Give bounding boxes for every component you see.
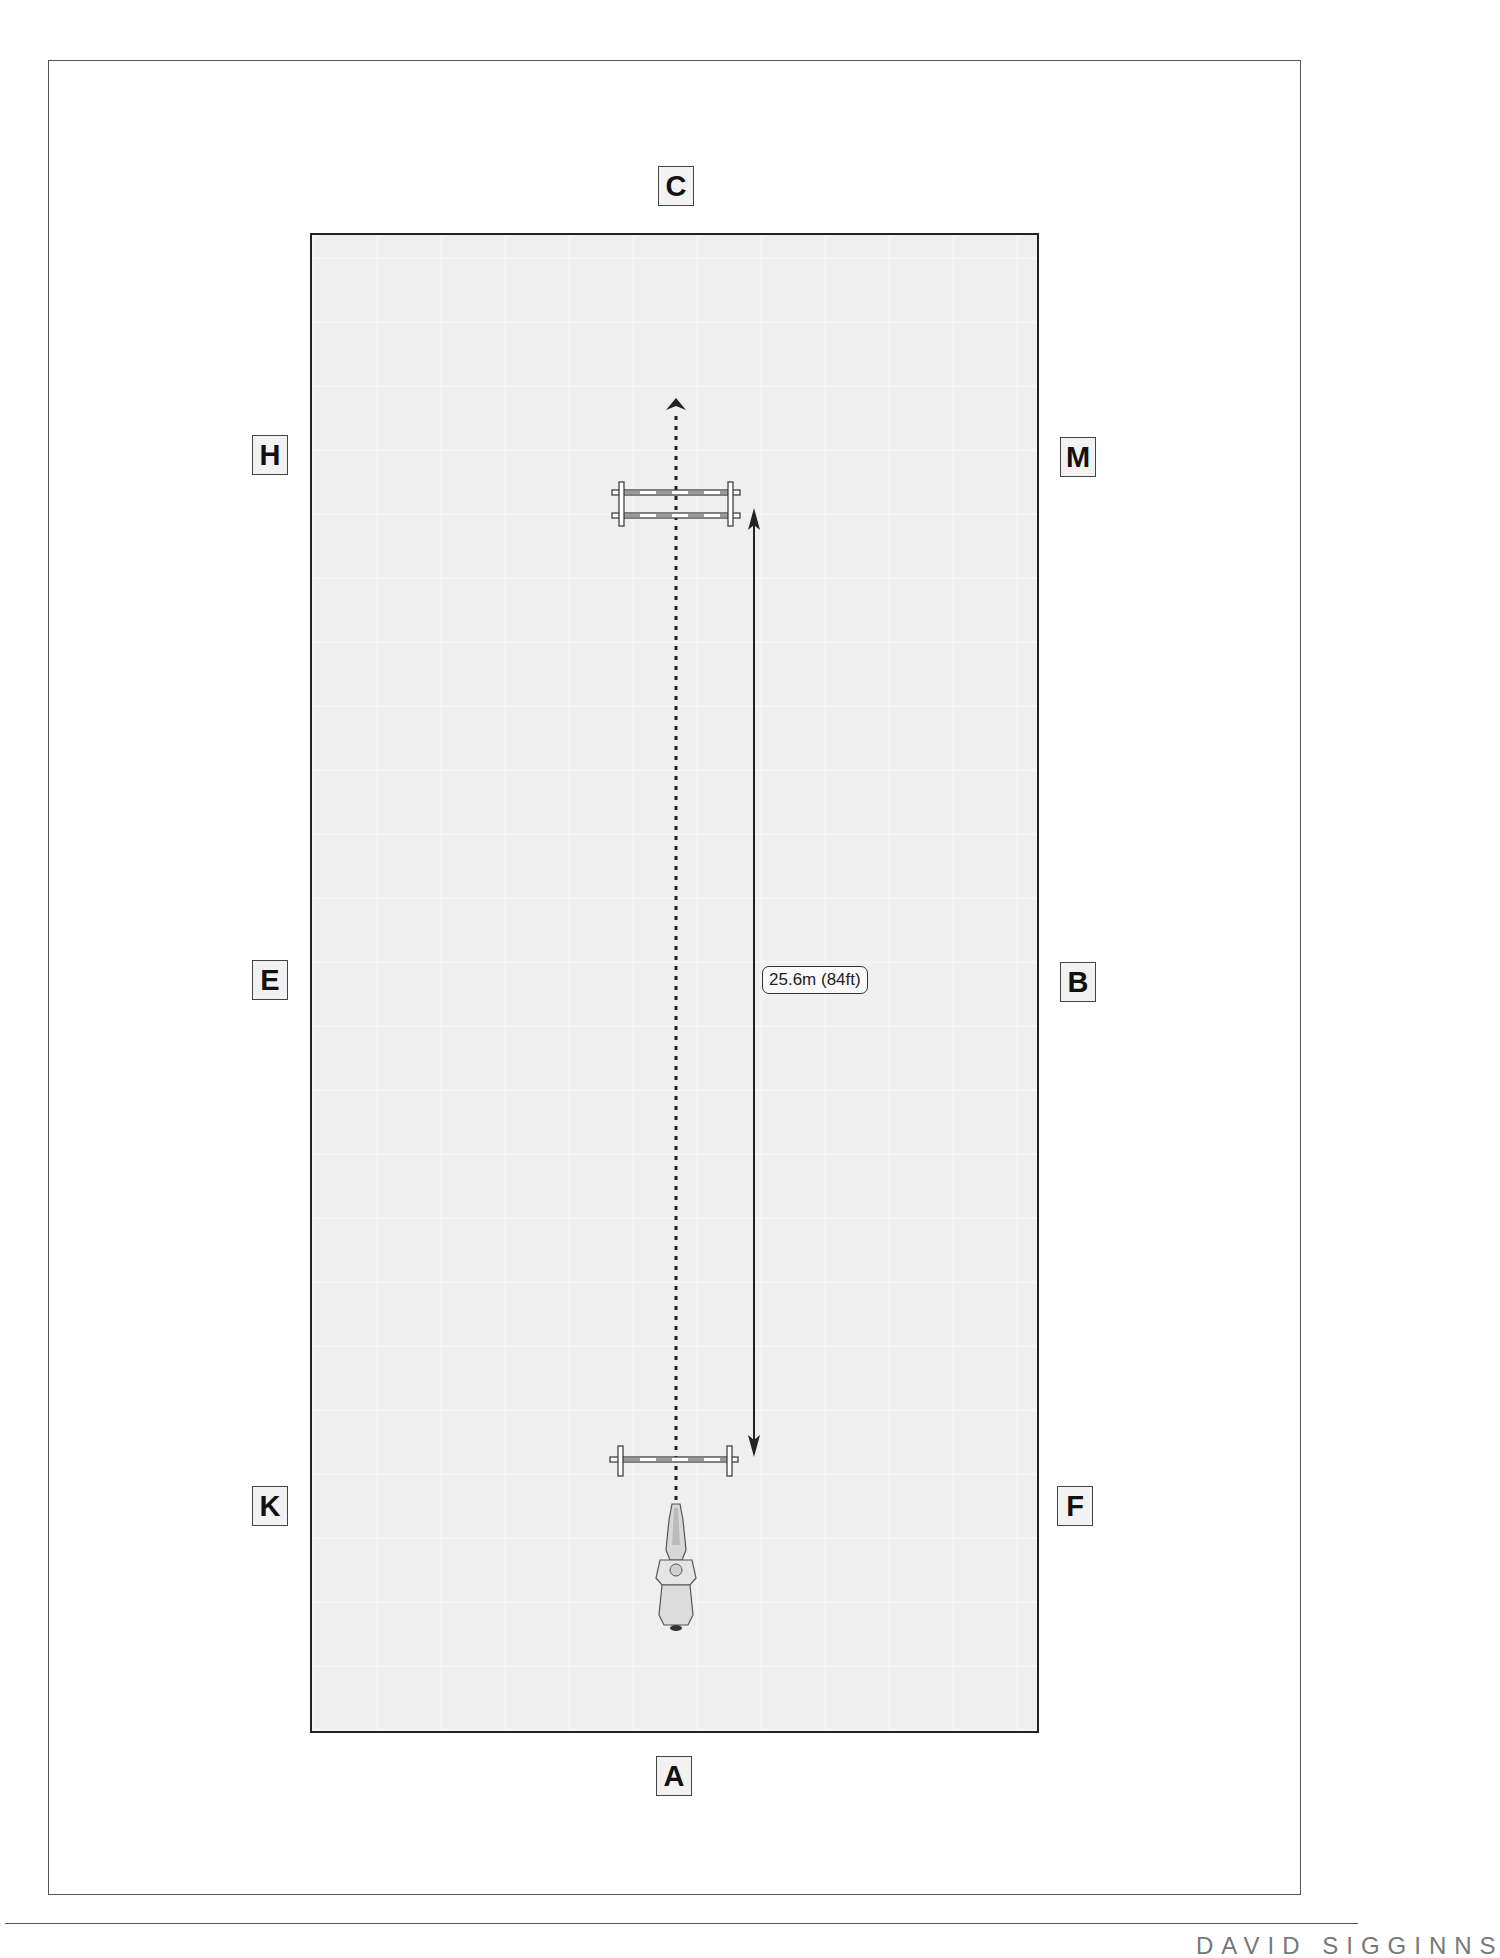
track-line bbox=[666, 398, 686, 1500]
distance-label: 25.6m (84ft) bbox=[762, 966, 868, 994]
ground-pole bbox=[610, 1446, 738, 1476]
distance-arrow bbox=[748, 508, 760, 1457]
track-arrowhead-icon bbox=[666, 398, 686, 410]
horse-rider-icon bbox=[656, 1504, 696, 1631]
footer-divider bbox=[5, 1923, 1358, 1924]
footer-credit: DAVID SIGGINNS bbox=[1196, 1934, 1500, 1958]
